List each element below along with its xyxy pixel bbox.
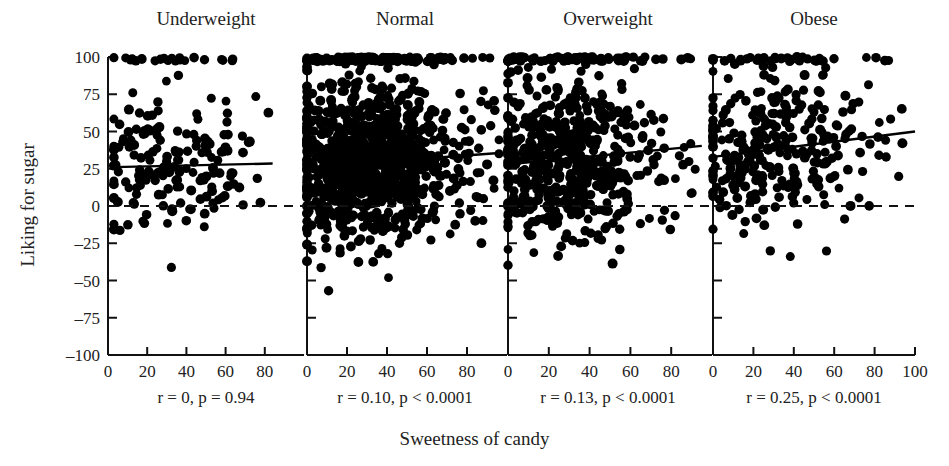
data-point	[398, 225, 408, 235]
data-point	[392, 192, 401, 201]
data-point	[613, 155, 622, 164]
data-point	[414, 134, 424, 144]
data-point	[395, 239, 404, 248]
data-point	[390, 125, 399, 134]
data-point	[354, 77, 363, 86]
data-point	[503, 183, 512, 192]
data-point	[838, 107, 848, 117]
data-point	[397, 132, 407, 142]
data-point	[431, 190, 441, 200]
data-point	[457, 123, 467, 133]
data-point	[800, 70, 810, 80]
data-point	[357, 134, 366, 143]
data-point	[386, 145, 395, 154]
data-point	[785, 123, 795, 133]
data-point	[121, 177, 130, 186]
data-point	[822, 246, 831, 255]
data-point	[460, 105, 469, 114]
data-point	[815, 125, 825, 135]
data-point	[658, 54, 668, 64]
data-point	[454, 164, 464, 174]
data-point	[384, 273, 393, 282]
data-point	[553, 218, 563, 228]
data-point	[302, 87, 311, 96]
data-point	[548, 169, 558, 179]
data-point	[384, 209, 393, 218]
data-point	[741, 96, 751, 106]
data-point	[615, 54, 624, 63]
data-point	[124, 127, 134, 137]
data-point	[479, 86, 488, 95]
data-point	[511, 123, 520, 132]
x-tick-label: 100	[902, 362, 928, 381]
data-point	[871, 53, 881, 63]
data-point	[322, 150, 331, 159]
data-point	[340, 129, 349, 138]
data-point	[629, 52, 638, 61]
data-point	[349, 126, 358, 135]
data-point	[327, 98, 336, 107]
data-point	[223, 130, 233, 140]
data-point	[144, 151, 153, 160]
data-point	[691, 165, 700, 174]
data-point	[365, 185, 375, 195]
data-point	[156, 136, 165, 145]
data-point	[862, 53, 871, 62]
data-point	[792, 177, 801, 186]
x-tick-label: 0	[709, 362, 718, 381]
data-point	[800, 125, 809, 134]
data-point	[484, 100, 493, 109]
data-point	[183, 147, 192, 156]
data-point	[131, 56, 141, 66]
data-point	[420, 184, 429, 193]
data-point	[671, 211, 680, 220]
data-point	[314, 203, 324, 213]
data-point	[154, 122, 164, 132]
data-point	[302, 63, 311, 72]
data-point	[302, 193, 311, 202]
data-point	[833, 121, 842, 130]
data-point	[683, 53, 693, 63]
data-point	[770, 76, 780, 86]
x-tick-label: 40	[581, 362, 598, 381]
data-point	[761, 121, 770, 130]
data-point	[571, 102, 580, 111]
data-point	[478, 53, 487, 62]
data-point	[821, 157, 831, 167]
data-point	[529, 248, 538, 257]
data-point	[543, 213, 552, 222]
data-point	[132, 190, 141, 199]
data-point	[521, 146, 530, 155]
data-point	[365, 104, 375, 114]
data-point	[601, 110, 610, 119]
data-point	[771, 53, 780, 62]
data-point	[434, 181, 444, 191]
data-point	[327, 55, 337, 65]
data-point	[303, 112, 312, 121]
data-point	[135, 108, 144, 117]
data-point	[731, 94, 740, 103]
data-point	[551, 207, 560, 216]
data-point	[718, 118, 727, 127]
data-point	[361, 55, 371, 65]
data-point	[408, 207, 417, 216]
data-point	[488, 176, 498, 186]
data-point	[774, 167, 783, 176]
data-point	[575, 187, 585, 197]
data-point	[109, 176, 118, 185]
data-point	[602, 222, 611, 231]
data-point	[124, 105, 134, 115]
data-point	[614, 209, 623, 218]
data-point	[338, 170, 347, 179]
data-point	[659, 114, 669, 124]
data-point	[534, 196, 543, 205]
data-point	[608, 259, 618, 269]
data-point	[640, 118, 649, 127]
data-point	[509, 52, 519, 62]
x-tick-label: 60	[217, 362, 234, 381]
data-point	[524, 63, 533, 72]
data-point	[223, 109, 232, 118]
data-point	[175, 148, 184, 157]
data-point	[381, 128, 391, 138]
x-tick-label: 20	[339, 362, 356, 381]
